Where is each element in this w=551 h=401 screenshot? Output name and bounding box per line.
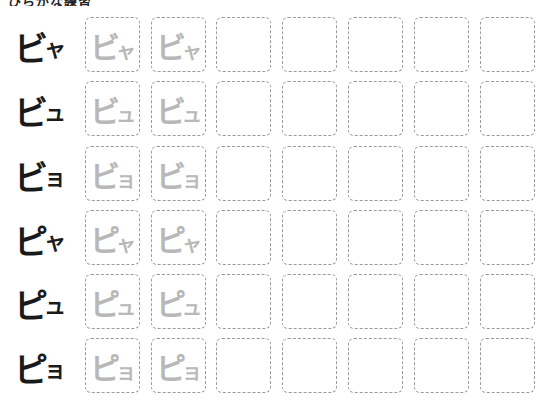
trace-small-kana: ョ [182,360,202,384]
trace-character: ビョ [90,152,136,196]
model-small-kana: ャ [44,30,66,62]
blank-practice-cell [480,81,535,136]
trace-small-kana: ョ [116,360,136,384]
blank-practice-cell [480,338,535,393]
blank-practice-cell [414,17,469,72]
trace-main-kana: ビ [90,94,116,129]
trace-cell: ビュ [151,81,206,136]
blank-practice-cell [348,17,403,72]
practice-row: ピュピュピュ [0,274,551,332]
model-small-kana: ョ [44,351,66,383]
trace-small-kana: ョ [116,168,136,192]
blank-practice-cell [480,17,535,72]
model-character: ビャ [14,23,74,69]
trace-cell: ピャ [151,210,206,265]
practice-row: ビョビョビョ [0,146,551,204]
trace-main-kana: ビ [90,30,116,65]
trace-character: ピャ [90,216,136,260]
trace-cell: ピュ [85,274,140,329]
trace-small-kana: ュ [182,103,202,127]
trace-small-kana: ョ [182,168,202,192]
model-small-kana: ャ [44,223,66,255]
trace-main-kana: ピ [90,223,116,258]
blank-practice-cell [414,274,469,329]
model-main-kana: ビ [14,86,44,135]
trace-main-kana: ビ [156,30,182,65]
trace-character: ビュ [156,87,202,131]
model-main-kana: ビ [14,151,44,200]
trace-cell: ビョ [151,146,206,201]
model-small-kana: ュ [44,287,66,319]
blank-practice-cell [282,338,337,393]
blank-practice-cell [480,146,535,201]
trace-cell: ピャ [85,210,140,265]
trace-cell: ビャ [151,17,206,72]
model-character: ピュ [14,280,74,326]
blank-practice-cell [216,210,271,265]
trace-character: ピョ [156,344,202,388]
trace-character: ピュ [156,280,202,324]
trace-main-kana: ビ [156,159,182,194]
blank-practice-cell [216,338,271,393]
model-small-kana: ュ [44,94,66,126]
blank-practice-cell [480,274,535,329]
practice-row: ビャビャビャ [0,17,551,75]
trace-small-kana: ュ [182,296,202,320]
trace-character: ビャ [90,23,136,67]
blank-practice-cell [348,146,403,201]
model-character: ピャ [14,216,74,262]
blank-practice-cell [348,338,403,393]
blank-practice-cell [348,274,403,329]
trace-cell: ビョ [85,146,140,201]
trace-cell: ビャ [85,17,140,72]
blank-practice-cell [282,146,337,201]
model-character: ピョ [14,344,74,390]
trace-main-kana: ピ [90,351,116,386]
trace-character: ビュ [90,87,136,131]
trace-cell: ピュ [151,274,206,329]
model-character: ビュ [14,87,74,133]
blank-practice-cell [348,81,403,136]
trace-character: ビョ [156,152,202,196]
practice-row: ビュビュビュ [0,81,551,139]
model-main-kana: ピ [14,279,44,328]
blank-practice-cell [414,146,469,201]
trace-cell: ピョ [151,338,206,393]
trace-small-kana: ャ [116,232,136,256]
blank-practice-cell [216,146,271,201]
model-main-kana: ピ [14,215,44,264]
trace-main-kana: ピ [156,287,182,322]
practice-row: ピャピャピャ [0,210,551,268]
trace-character: ピャ [156,216,202,260]
trace-main-kana: ピ [156,351,182,386]
blank-practice-cell [216,17,271,72]
blank-practice-cell [414,81,469,136]
blank-practice-cell [480,210,535,265]
blank-practice-cell [282,81,337,136]
blank-practice-cell [282,17,337,72]
blank-practice-cell [414,338,469,393]
model-main-kana: ピ [14,343,44,392]
blank-practice-cell [216,274,271,329]
trace-character: ビャ [156,23,202,67]
trace-main-kana: ピ [156,223,182,258]
worksheet-header: ひらがな練習 [0,0,551,6]
trace-small-kana: ャ [182,39,202,63]
trace-character: ピョ [90,344,136,388]
model-small-kana: ョ [44,159,66,191]
trace-small-kana: ャ [116,39,136,63]
model-main-kana: ビ [14,22,44,71]
trace-character: ピュ [90,280,136,324]
model-character: ビョ [14,152,74,198]
practice-row: ピョピョピョ [0,338,551,396]
blank-practice-cell [216,81,271,136]
trace-small-kana: ャ [182,232,202,256]
blank-practice-cell [282,210,337,265]
trace-cell: ピョ [85,338,140,393]
trace-cell: ビュ [85,81,140,136]
worksheet-title: ひらがな練習 [8,0,92,6]
blank-practice-cell [282,274,337,329]
trace-main-kana: ピ [90,287,116,322]
blank-practice-cell [348,210,403,265]
trace-main-kana: ビ [156,94,182,129]
